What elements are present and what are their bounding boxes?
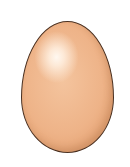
egg-illustration xyxy=(21,21,114,153)
